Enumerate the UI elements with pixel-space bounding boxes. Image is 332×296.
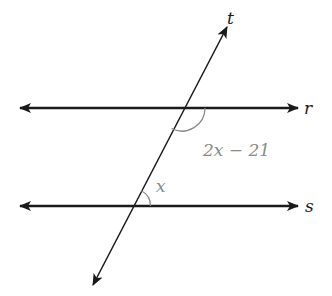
angle-label-lower: x <box>156 176 166 196</box>
parallel-lines-diagram: r s t 2x − 21 x <box>0 0 332 296</box>
angle-arc-lower <box>141 191 151 207</box>
transversal-t-label: t <box>227 8 234 28</box>
line-r-label: r <box>304 98 313 118</box>
angle-label-upper: 2x − 21 <box>202 140 270 160</box>
line-s-label: s <box>305 196 314 216</box>
angle-arc-upper <box>172 108 206 131</box>
